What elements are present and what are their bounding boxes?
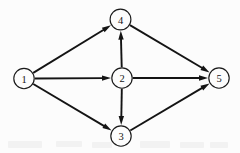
edge-1-to-4 [33, 25, 111, 73]
edge-4-to-5 [130, 25, 210, 72]
node-label: 5 [216, 73, 221, 84]
directed-graph-canvas: 14235 [0, 0, 240, 153]
graph-node-1[interactable]: 1 [14, 68, 34, 88]
edge-3-to-5 [130, 84, 209, 131]
edge-line [33, 29, 104, 73]
arrowhead-icon [200, 65, 209, 72]
arrowhead-icon [118, 31, 123, 40]
graph-node-4[interactable]: 4 [110, 9, 131, 30]
scan-artifact [92, 142, 112, 148]
scan-artifact [210, 142, 228, 148]
node-label: 4 [118, 15, 124, 26]
scan-artifact [140, 141, 170, 148]
graph-node-3[interactable]: 3 [111, 126, 131, 146]
edge-1-to-2 [35, 75, 111, 80]
node-label: 1 [21, 74, 26, 85]
edge-line [130, 25, 203, 68]
arrowhead-icon [102, 75, 111, 80]
node-label: 2 [119, 73, 124, 84]
edge-line [121, 38, 122, 67]
arrowhead-icon [200, 84, 209, 91]
arrowhead-icon [119, 116, 124, 125]
node-label: 3 [118, 131, 123, 142]
arrowhead-icon [199, 75, 208, 80]
arrowhead-icon [102, 123, 111, 130]
edge-2-to-5 [133, 75, 208, 80]
scan-artifact [56, 141, 82, 147]
edge-line [33, 84, 105, 127]
graph-figure: 14235 [0, 0, 240, 153]
graph-node-5[interactable]: 5 [209, 68, 229, 88]
graph-node-2[interactable]: 2 [112, 68, 132, 88]
edge-2-to-3 [119, 89, 124, 125]
edge-1-to-3 [33, 84, 111, 130]
scan-artifact [8, 141, 42, 148]
edge-2-to-4 [118, 31, 123, 67]
edge-line [130, 87, 203, 130]
scan-artifact [180, 142, 204, 148]
arrowhead-icon [102, 25, 111, 32]
